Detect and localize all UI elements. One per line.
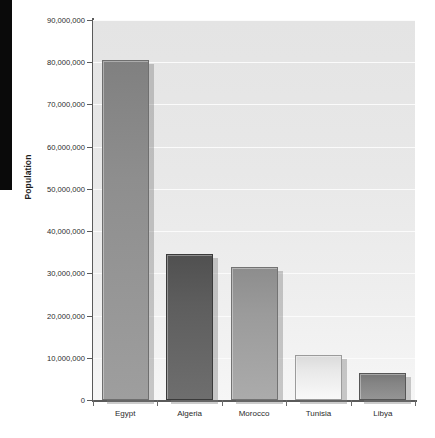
y-tick-label: 60,000,000: [2, 142, 85, 151]
y-tick-mark: [87, 231, 93, 232]
bar-tunisia[interactable]: [295, 355, 342, 400]
bar-fill: [231, 267, 278, 400]
y-tick-label: 30,000,000: [2, 269, 85, 278]
plot-area: [93, 20, 415, 400]
x-tick-label-tunisia: Tunisia: [306, 409, 332, 418]
bar-algeria[interactable]: [166, 254, 213, 400]
y-tick-mark: [87, 273, 93, 274]
y-tick-label: 90,000,000: [2, 16, 85, 25]
x-tick-label-libya: Libya: [373, 409, 392, 418]
x-tick-mark: [351, 400, 352, 406]
population-bar-chart: Population 010,000,00020,000,00030,000,0…: [0, 0, 435, 438]
y-tick-mark: [87, 62, 93, 63]
x-tick-label-egypt: Egypt: [115, 409, 135, 418]
bar-egypt[interactable]: [102, 60, 149, 400]
y-tick-mark: [87, 358, 93, 359]
y-tick-label: 80,000,000: [2, 58, 85, 67]
y-tick-label: 20,000,000: [2, 311, 85, 320]
x-tick-mark: [222, 400, 223, 406]
x-tick-label-algeria: Algeria: [177, 409, 202, 418]
gridline: [93, 20, 415, 21]
bar-fill: [166, 254, 213, 400]
y-tick-mark: [87, 20, 93, 21]
y-tick-label: 50,000,000: [2, 184, 85, 193]
y-tick-label: 40,000,000: [2, 227, 85, 236]
x-tick-mark: [93, 400, 94, 406]
bar-morocco[interactable]: [231, 267, 278, 400]
y-tick-mark: [87, 147, 93, 148]
y-tick-mark: [87, 316, 93, 317]
bar-fill: [295, 355, 342, 400]
y-tick-label: 70,000,000: [2, 100, 85, 109]
x-tick-mark: [286, 400, 287, 406]
y-tick-mark: [87, 104, 93, 105]
bar-libya[interactable]: [359, 373, 406, 400]
bar-fill: [102, 60, 149, 400]
x-tick-mark: [157, 400, 158, 406]
y-tick-mark: [87, 189, 93, 190]
y-tick-label: 10,000,000: [2, 353, 85, 362]
y-tick-label: 0: [2, 396, 85, 405]
x-tick-mark: [415, 400, 416, 406]
x-tick-label-morocco: Morocco: [239, 409, 270, 418]
bar-fill: [359, 373, 406, 400]
